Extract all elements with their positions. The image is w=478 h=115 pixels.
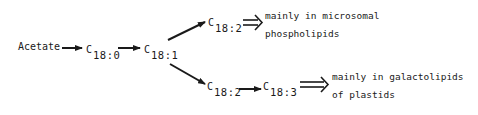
node-c18-0-sub: 18:0 — [93, 49, 120, 61]
node-c18-3: C18:3 — [263, 77, 297, 93]
node-c18-1: C18:1 — [144, 40, 178, 56]
node-c18-2-lower: C18:2 — [207, 77, 241, 93]
node-c18-3-base: C — [263, 81, 269, 92]
node-c18-2-upper: C18:2 — [208, 13, 242, 29]
node-c18-0: C18:0 — [86, 40, 120, 56]
node-acetate: Acetate — [18, 42, 60, 52]
node-c18-3-sub: 18:3 — [270, 86, 297, 98]
node-c18-0-base: C — [86, 44, 92, 55]
arrow-c18-1-to-c18-2-upper — [168, 22, 205, 40]
node-c18-2-upper-base: C — [208, 17, 214, 28]
node-c18-2-lower-sub: 18:2 — [214, 86, 241, 98]
note-lower-line1: mainly in galactolipids — [332, 72, 464, 82]
note-upper-line2: phospholipids — [265, 29, 339, 39]
note-lower-line2: of plastids — [332, 90, 395, 100]
arrow-c18-1-to-c18-2-lower — [170, 64, 205, 84]
node-c18-2-lower-base: C — [207, 81, 213, 92]
note-upper-line1: mainly in microsomal — [265, 11, 379, 21]
double-arrow-lower-icon — [300, 77, 328, 92]
double-arrow-upper-icon — [243, 15, 262, 30]
node-c18-1-sub: 18:1 — [151, 49, 178, 61]
node-c18-2-upper-sub: 18:2 — [215, 22, 242, 34]
node-c18-1-base: C — [144, 44, 150, 55]
